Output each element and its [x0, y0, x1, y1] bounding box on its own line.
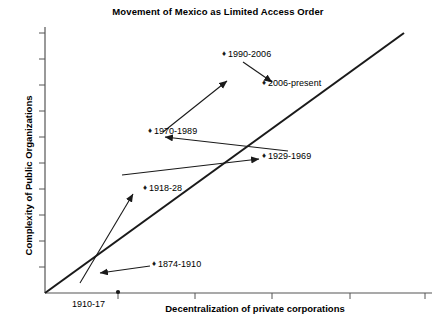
diamond-marker-icon: ♦: [262, 152, 266, 160]
data-label-1970-1989: ♦ 1970-1989: [148, 126, 197, 136]
data-label-1918-28: ♦ 1918-28: [143, 183, 182, 193]
data-label-text: 1929-1969: [268, 151, 311, 161]
arrow-1929-1969-to-1970-1989: [165, 137, 288, 151]
diamond-marker-icon: ♦: [143, 184, 147, 192]
arrow-1970-1989-upward: [163, 81, 227, 132]
data-label-1929-1969: ♦ 1929-1969: [262, 151, 311, 161]
y-axis: [39, 27, 45, 293]
diamond-marker-icon: ♦: [148, 127, 152, 135]
x-tick-label-1910-17: 1910-17: [72, 299, 105, 309]
plot-area: [0, 0, 436, 327]
chart-figure: Movement of Mexico as Limited Access Ord…: [0, 0, 436, 327]
x-axis-title: Decentralization of private corporations: [130, 303, 380, 314]
data-label-text: 1990-2006: [228, 49, 271, 59]
data-label-1874-1910: ♦ 1874-1910: [152, 259, 201, 269]
diamond-marker-icon: ♦: [152, 260, 156, 268]
arrow-1918-28-to-1929-1969: [122, 159, 259, 175]
arrow-1874-1910-to-origin: [100, 266, 150, 273]
data-label-text: 1918-28: [149, 183, 182, 193]
data-label-text: 2006-present: [268, 78, 321, 88]
diamond-marker-icon: ♦: [222, 50, 226, 58]
origin-marker-1910-17: [116, 290, 120, 294]
data-label-text: 1970-1989: [154, 126, 197, 136]
data-label-2006-present: ♦ 2006-present: [262, 78, 321, 88]
annotation-arrows: [80, 62, 288, 283]
data-label-text: 1874-1910: [158, 259, 201, 269]
y-axis-title: Complexity of Public Organizations: [23, 76, 34, 276]
diamond-marker-icon: ♦: [262, 79, 266, 87]
data-label-1990-2006: ♦ 1990-2006: [222, 49, 271, 59]
